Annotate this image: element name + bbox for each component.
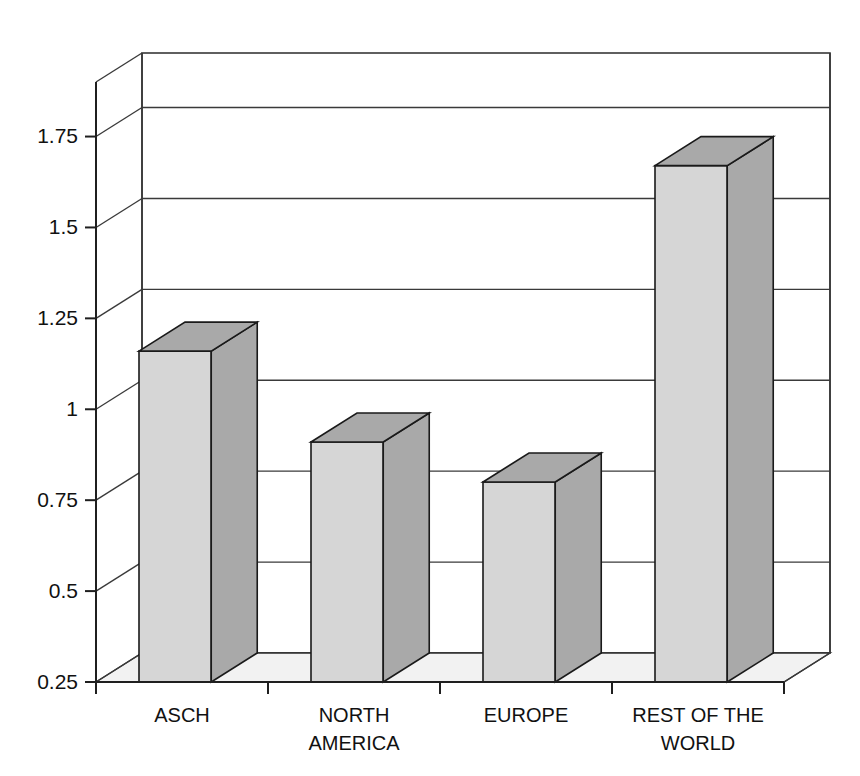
bar-group-0: [139, 322, 257, 682]
bar-group-2: [483, 453, 601, 682]
y-tick-label-0.5: 0.5: [49, 579, 78, 602]
chart-canvas: 0.250.50.7511.251.51.75 ASCHNORTHAMERICA…: [0, 0, 860, 776]
y-axis-ticks: 0.250.50.7511.251.51.75: [37, 124, 96, 692]
bars-layer: [139, 137, 773, 682]
category-label-3: WORLD: [661, 732, 735, 754]
bar-group-3: [655, 137, 773, 682]
category-label-1: AMERICA: [308, 732, 400, 754]
category-label-3: REST OF THE: [632, 704, 764, 726]
depth-line-0.5: [96, 562, 142, 591]
x-axis-category-labels: ASCHNORTHAMERICAEUROPEREST OF THEWORLD: [154, 704, 764, 754]
depth-line-1.5: [96, 198, 142, 227]
bar-side-face-1: [383, 413, 429, 682]
depth-line-1.25: [96, 289, 142, 318]
y-tick-label-0.25: 0.25: [37, 670, 78, 693]
bar-side-face-2: [555, 453, 601, 682]
y-tick-label-1.25: 1.25: [37, 306, 78, 329]
bar-side-face-0: [211, 322, 257, 682]
bar-group-1: [311, 413, 429, 682]
depth-line-1.75: [96, 108, 142, 137]
y-tick-label-1.75: 1.75: [37, 124, 78, 147]
bar-front-face-0: [139, 351, 211, 682]
bar-front-face-2: [483, 482, 555, 682]
bar-side-face-3: [727, 137, 773, 682]
bar-front-face-3: [655, 166, 727, 682]
y-tick-label-1: 1: [66, 397, 78, 420]
category-label-1: NORTH: [319, 704, 390, 726]
bar-chart-figure: 0.250.50.7511.251.51.75 ASCHNORTHAMERICA…: [0, 0, 860, 776]
depth-connector-lines: [96, 53, 142, 682]
y-tick-label-1.5: 1.5: [49, 215, 78, 238]
right-depth-lines: [784, 53, 830, 682]
depth-line-0.75: [96, 471, 142, 500]
depth-line-1: [96, 380, 142, 409]
y-tick-label-0.75: 0.75: [37, 488, 78, 511]
top-left-depth-edge: [96, 53, 142, 82]
category-label-2: EUROPE: [484, 704, 568, 726]
category-label-0: ASCH: [154, 704, 210, 726]
x-axis-ticks: [96, 682, 784, 694]
bar-front-face-1: [311, 442, 383, 682]
